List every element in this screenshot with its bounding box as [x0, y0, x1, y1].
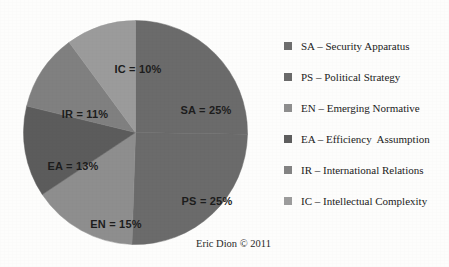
legend-swatch-icon-en: [284, 104, 292, 112]
legend-row-ps[interactable]: PS – Political Strategy: [284, 61, 449, 92]
legend-label-sa: SA – Security Apparatus: [301, 40, 409, 52]
chart-legend: SA – Security ApparatusPS – Political St…: [284, 30, 449, 216]
pie-slice-label-sa: SA = 25%: [180, 104, 231, 116]
pie-slice-label-ir: IR = 11%: [62, 108, 109, 120]
legend-label-en: EN – Emerging Normative: [301, 102, 420, 114]
legend-row-ic[interactable]: IC – Intellectual Complexity: [284, 185, 449, 216]
legend-swatch-icon-sa: [284, 42, 292, 50]
pie-slice-label-en: EN = 15%: [90, 218, 141, 230]
legend-label-ir: IR – International Relations: [301, 164, 424, 176]
pie-chart-svg: [23, 20, 248, 245]
chart-page: SA = 25%PS = 25%EN = 15%EA = 13%IR = 11%…: [0, 0, 449, 267]
pie-slice-ps[interactable]: [132, 133, 248, 245]
pie-slice-label-ic: IC = 10%: [114, 63, 161, 75]
attribution-text: Eric Dion © 2011: [196, 238, 271, 249]
legend-row-ea[interactable]: EA – Efficiency Assumption: [284, 123, 449, 154]
legend-swatch-icon-ps: [284, 73, 292, 81]
legend-swatch-icon-ic: [284, 197, 292, 205]
legend-label-ea: EA – Efficiency Assumption: [301, 133, 430, 145]
legend-row-en[interactable]: EN – Emerging Normative: [284, 92, 449, 123]
legend-swatch-icon-ir: [284, 166, 292, 174]
pie-slice-group: [24, 21, 248, 245]
pie-slice-sa[interactable]: [136, 21, 248, 135]
legend-label-ps: PS – Political Strategy: [301, 71, 400, 83]
pie-chart: SA = 25%PS = 25%EN = 15%EA = 13%IR = 11%…: [23, 20, 248, 245]
legend-label-ic: IC – Intellectual Complexity: [301, 195, 427, 207]
legend-row-sa[interactable]: SA – Security Apparatus: [284, 30, 449, 61]
legend-row-ir[interactable]: IR – International Relations: [284, 154, 449, 185]
pie-slice-label-ea: EA = 13%: [47, 160, 98, 172]
pie-slice-label-ps: PS = 25%: [182, 195, 233, 207]
legend-swatch-icon-ea: [284, 135, 292, 143]
